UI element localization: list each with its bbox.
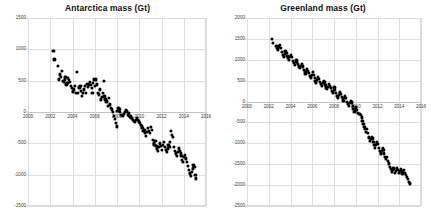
y-axis-tick-label: -1000 (14, 172, 26, 177)
x-axis-tick-label: 2000 (23, 115, 33, 120)
x-axis-tick-label: 2004 (67, 115, 77, 120)
y-axis-tick-label: 500 (18, 78, 26, 83)
gridline-vertical (269, 18, 270, 206)
antarctica-chart-title: Antarctica mass (Gt) (0, 3, 215, 13)
y-axis-tick-label: -1500 (233, 162, 245, 167)
y-axis-tick-label: -1500 (14, 204, 26, 209)
greenland-chart-title: Greenland mass (Gt) (215, 3, 431, 13)
greenland-chart-panel: Greenland mass (Gt) 2000150010005000-500… (215, 0, 431, 216)
gridline-vertical (399, 18, 400, 206)
gridline-vertical (421, 18, 422, 206)
x-axis-tick-label: 2002 (45, 115, 55, 120)
gridline-horizontal (247, 206, 421, 207)
x-axis-tick-label: 2008 (329, 105, 339, 110)
charts-row: Antarctica mass (Gt) 150010005000-500-10… (0, 0, 431, 216)
x-axis-tick-label: 2014 (394, 105, 404, 110)
gridline-vertical (378, 18, 379, 206)
y-axis-tick-label: -1000 (233, 141, 245, 146)
y-axis-tick-label: -500 (236, 120, 245, 125)
x-axis-tick-label: 2014 (179, 115, 189, 120)
gridline-horizontal (28, 206, 206, 207)
y-axis-tick-label: 1500 (16, 16, 26, 21)
greenland-plot-area: 2000150010005000-500-1000-1500-2000-2500… (247, 18, 421, 206)
x-axis-tick-label: 2004 (285, 105, 295, 110)
y-axis-tick-label: 2000 (235, 16, 245, 21)
y-axis-tick-label: -2000 (233, 183, 245, 188)
y-axis-tick-label: 500 (237, 78, 245, 83)
x-axis-tick-label: 2016 (201, 115, 211, 120)
y-axis-tick-label: -500 (17, 141, 26, 146)
y-axis-tick-label: 1500 (235, 37, 245, 42)
x-axis-tick-label: 2012 (372, 105, 382, 110)
y-axis-tick-label: -2500 (233, 204, 245, 209)
x-axis-tick-label: 2006 (307, 105, 317, 110)
x-axis-tick-label: 2000 (242, 105, 252, 110)
gridline-vertical (312, 18, 313, 206)
x-axis-tick-label: 2016 (416, 105, 426, 110)
gridline-vertical (247, 18, 248, 206)
antarctica-plot-area: 150010005000-500-1000-150020002002200420… (28, 18, 206, 206)
y-axis-tick-label: 1000 (16, 47, 26, 52)
gridline-vertical (334, 18, 335, 206)
x-axis-tick-label: 2006 (90, 115, 100, 120)
gridline-vertical (291, 18, 292, 206)
x-axis-tick-label: 2002 (264, 105, 274, 110)
y-axis-tick-label: 1000 (235, 57, 245, 62)
antarctica-chart-panel: Antarctica mass (Gt) 150010005000-500-10… (0, 0, 215, 216)
x-axis-tick-label: 2012 (156, 115, 166, 120)
